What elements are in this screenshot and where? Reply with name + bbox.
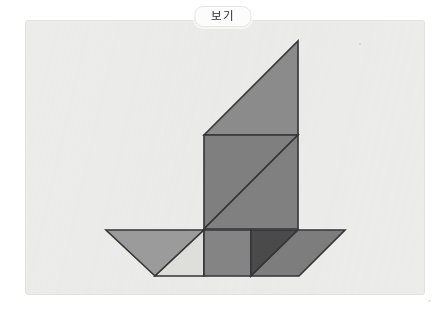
- tangram-figure: [0, 0, 446, 312]
- tangram-piece-sail-upper-large-triangle[interactable]: [204, 41, 298, 135]
- figure-label-badge: 보기: [194, 6, 251, 27]
- tangram-piece-hull-center-square[interactable]: [204, 230, 251, 276]
